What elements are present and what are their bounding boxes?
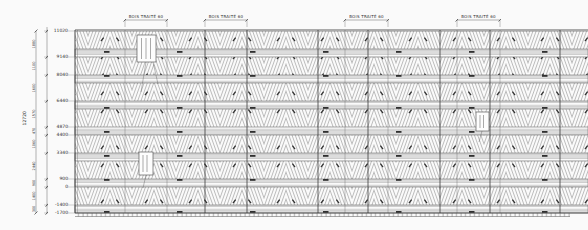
interval-dimension-label: 1880 — [33, 37, 41, 51]
elevation-label: 4870 — [48, 125, 68, 130]
interval-dimension-label: 1600 — [33, 81, 41, 95]
elevation-label: 8040 — [48, 73, 68, 78]
top-dimension-label: BOIS TRAITÉ 60 — [123, 15, 169, 19]
top-dimension-label: BOIS TRAITÉ 60 — [203, 15, 249, 19]
elevation-label: 6440 — [48, 99, 68, 104]
interval-dimension-label: 1060 — [33, 137, 41, 151]
bottom-tick-band — [75, 213, 570, 217]
elevation-label: 3340 — [48, 151, 68, 156]
interval-dimension-label: 1570 — [33, 107, 41, 121]
interval-dimension-label: 300 — [33, 202, 41, 216]
elevation-label: -1400 — [48, 203, 68, 208]
interval-dimension-label: 470 — [33, 124, 41, 138]
annotation-box — [476, 112, 489, 131]
drawing-linework — [0, 0, 588, 230]
interval-dimension-label: 900 — [33, 176, 41, 190]
elevation-label: 0 — [48, 185, 68, 190]
elevation-label: 11020 — [48, 29, 68, 34]
interval-dimension-label: 1100 — [33, 59, 41, 73]
annotation-box — [137, 35, 156, 62]
elevation-label: 4400 — [48, 133, 68, 138]
annotation-box — [139, 152, 153, 175]
top-dimension-label: BOIS TRAITÉ 60 — [456, 15, 502, 19]
top-dimension-label: BOIS TRAITÉ 60 — [344, 15, 390, 19]
facade-elevation-drawing: BOIS TRAITÉ 60 BOIS TRAITÉ 60 BOIS TRAIT… — [0, 0, 588, 230]
elevation-label: 9140 — [48, 55, 68, 60]
elevation-label: -1700 — [48, 211, 68, 216]
interval-dimension-label: 1400 — [33, 189, 41, 203]
top-dimension-lines — [124, 19, 502, 28]
interval-dimension-label: 2440 — [33, 159, 41, 173]
elevation-label: 900 — [48, 177, 68, 182]
overall-dimension-label: 12720 — [23, 111, 28, 125]
